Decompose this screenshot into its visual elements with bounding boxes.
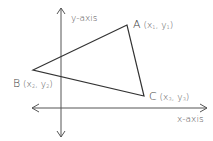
vertex-b-name: B bbox=[13, 77, 20, 90]
x-axis-label: x-axis bbox=[177, 114, 204, 124]
x-axis bbox=[32, 104, 207, 112]
vertex-a-label: A (x1, y1) bbox=[133, 20, 173, 32]
vertex-c-name: C bbox=[149, 90, 157, 103]
coordinate-diagram: y-axis x-axis A (x1, y1) B (x2, y2) C (x… bbox=[0, 0, 213, 141]
vertex-a-name: A bbox=[133, 18, 141, 31]
y-axis-label: y-axis bbox=[71, 13, 97, 23]
vertex-b-label: B (x2, y2) bbox=[13, 79, 53, 91]
vertex-c-label: C (x3, y3) bbox=[149, 92, 189, 104]
y-axis bbox=[57, 8, 65, 137]
